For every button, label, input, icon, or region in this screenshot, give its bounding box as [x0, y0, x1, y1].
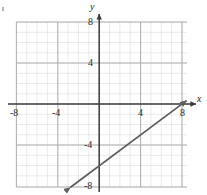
y-tick-label-neg8: -8 — [84, 181, 92, 191]
x-tick-label-neg8: -8 — [10, 108, 18, 118]
x-axis-name: x — [197, 94, 201, 104]
x-tick-label-4: 4 — [138, 108, 143, 118]
y-tick-label-neg4: -4 — [84, 140, 92, 150]
y-axis-name: y — [90, 2, 94, 12]
y-tick-label-4: 4 — [88, 58, 93, 68]
y-tick-label-8: 8 — [88, 17, 93, 27]
graph-figure: -8 -4 4 8 8 4 -4 -8 y x — [0, 0, 207, 195]
x-tick-label-8: 8 — [180, 108, 185, 118]
x-tick-label-neg4: -4 — [52, 108, 60, 118]
coordinate-plane-svg — [0, 0, 207, 195]
